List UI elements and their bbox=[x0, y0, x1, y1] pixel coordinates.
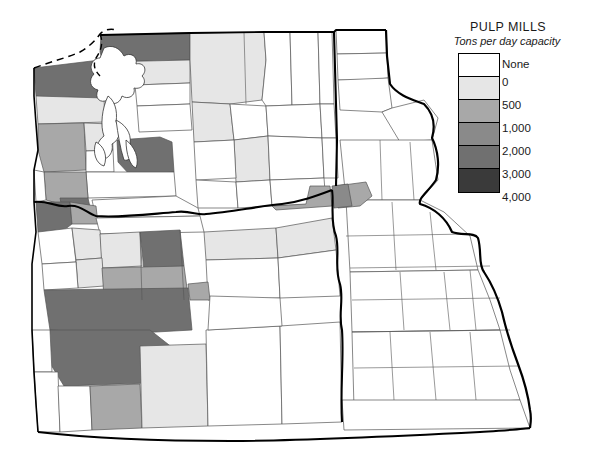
county-area bbox=[135, 83, 190, 106]
county-area bbox=[266, 104, 322, 138]
legend-body: None 0 500 1,000 2,000 3,000 4,000 bbox=[424, 53, 584, 193]
legend-label-500: 500 bbox=[502, 100, 521, 112]
county-area bbox=[290, 32, 320, 105]
county-area bbox=[342, 400, 530, 430]
county-area bbox=[137, 104, 192, 132]
county-area bbox=[38, 123, 86, 172]
county-area bbox=[350, 270, 500, 332]
county-area bbox=[32, 330, 52, 372]
legend-swatch-0 bbox=[459, 77, 499, 100]
county-area bbox=[90, 384, 142, 430]
county-area bbox=[206, 326, 282, 426]
county-area bbox=[192, 102, 234, 142]
county-area bbox=[58, 386, 92, 432]
county-area bbox=[280, 322, 342, 424]
county-area bbox=[262, 32, 292, 106]
legend-swatch-2000 bbox=[459, 146, 499, 169]
county-area bbox=[346, 200, 478, 272]
county-area bbox=[206, 258, 280, 300]
county-area bbox=[188, 282, 210, 300]
county-area bbox=[338, 78, 392, 112]
county-area bbox=[208, 296, 282, 330]
county-area bbox=[336, 30, 387, 54]
county-area bbox=[318, 32, 334, 104]
county-area bbox=[140, 344, 208, 428]
legend-label-4000: 4,000 bbox=[502, 192, 531, 204]
county-area bbox=[190, 32, 266, 104]
pulp-mills-map-figure: PULP MILLS Tons per day capacity None 0 … bbox=[0, 0, 598, 463]
county-area bbox=[337, 53, 388, 80]
legend-label-1000: 1,000 bbox=[502, 123, 531, 135]
county-area bbox=[72, 228, 102, 260]
legend-swatch-none bbox=[459, 54, 499, 77]
outline-south bbox=[38, 428, 530, 441]
county-area bbox=[268, 136, 324, 180]
legend-label-0: 0 bbox=[502, 77, 508, 89]
legend-subtitle: Tons per day capacity bbox=[424, 35, 584, 47]
county-area bbox=[236, 180, 272, 208]
county-area bbox=[38, 228, 76, 264]
county-area bbox=[352, 330, 520, 408]
legend-swatch-500 bbox=[459, 100, 499, 123]
county-area bbox=[36, 96, 105, 124]
legend-label-3000: 3,000 bbox=[502, 169, 531, 181]
county-area bbox=[332, 184, 352, 208]
county-area bbox=[194, 140, 236, 180]
county-area bbox=[76, 258, 104, 288]
county-area bbox=[230, 104, 268, 140]
legend-title: PULP MILLS bbox=[424, 20, 584, 34]
county-area bbox=[140, 230, 184, 270]
county-area bbox=[234, 136, 270, 182]
county-area bbox=[44, 288, 192, 334]
legend-label-2000: 2,000 bbox=[502, 146, 531, 158]
legend-label-none: None bbox=[502, 59, 530, 71]
county-area bbox=[320, 104, 336, 138]
county-area bbox=[196, 180, 238, 208]
county-area bbox=[278, 250, 340, 298]
county-area bbox=[34, 170, 46, 202]
legend-swatch-3000 bbox=[459, 169, 499, 192]
county-area bbox=[100, 232, 142, 268]
legend-color-bar bbox=[458, 53, 500, 193]
county-area bbox=[42, 262, 78, 290]
county-area bbox=[204, 228, 278, 260]
map-legend: PULP MILLS Tons per day capacity None 0 … bbox=[424, 20, 584, 193]
county-area bbox=[86, 172, 176, 198]
legend-swatch-1000 bbox=[459, 123, 499, 146]
